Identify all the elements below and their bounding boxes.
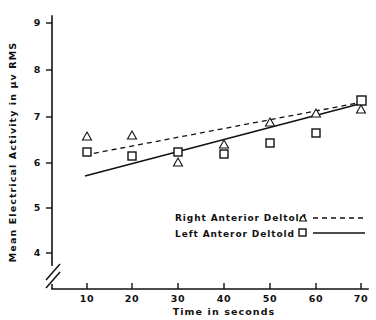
y-tick-label-4: 4 (34, 247, 41, 258)
y-tick-label-7: 7 (34, 111, 41, 122)
x-axis-title: Time in seconds (173, 306, 276, 317)
x-tick-label-30: 30 (171, 293, 185, 304)
y-tick-label-5: 5 (34, 202, 41, 213)
data-point-square-40 (220, 150, 228, 158)
axis-break-slash-upper (46, 264, 60, 280)
x-tick-label-20: 20 (125, 293, 139, 304)
data-point-square-50 (266, 139, 274, 147)
axis-break-slash-lower (46, 272, 60, 288)
x-axis-ticks (87, 283, 361, 289)
scatter-plot: 4 5 6 7 8 9 10 20 30 40 50 60 70 (0, 0, 376, 320)
data-point-square-70 (357, 96, 366, 105)
legend: Right Anterior Deltold Left Anteror Delt… (175, 213, 365, 239)
data-point-triangle-70 (357, 105, 366, 113)
y-axis-ticks (46, 23, 52, 253)
x-tick-label-10: 10 (80, 293, 94, 304)
x-tick-label-50: 50 (263, 293, 277, 304)
x-tick-label-40: 40 (217, 293, 231, 304)
data-point-square-20 (128, 152, 136, 160)
figure-container: 4 5 6 7 8 9 10 20 30 40 50 60 70 (0, 0, 376, 320)
y-axis-tick-labels: 4 5 6 7 8 9 (34, 17, 41, 258)
x-tick-label-60: 60 (309, 293, 323, 304)
x-axis-tick-labels: 10 20 30 40 50 60 70 (80, 293, 368, 304)
y-tick-label-8: 8 (34, 64, 41, 75)
data-point-square-30 (174, 148, 182, 156)
y-tick-label-6: 6 (34, 157, 41, 168)
series-left-anterior-deltoid-markers (83, 96, 366, 160)
legend-label-right-anterior-deltoid: Right Anterior Deltold (175, 213, 307, 223)
y-tick-label-9: 9 (34, 17, 41, 28)
x-tick-label-70: 70 (354, 293, 368, 304)
legend-square-marker-icon (299, 229, 306, 236)
legend-label-left-anterior-deltoid: Left Anteror Deltold (175, 229, 295, 239)
data-point-square-60 (312, 129, 320, 137)
data-point-triangle-20 (128, 131, 137, 139)
y-axis-title: Mean Electrical Activity in µv RMS (7, 42, 18, 262)
data-point-square-10 (83, 148, 91, 156)
data-point-triangle-40 (220, 140, 229, 148)
data-point-triangle-10 (83, 132, 92, 140)
data-point-triangle-30 (174, 158, 183, 166)
